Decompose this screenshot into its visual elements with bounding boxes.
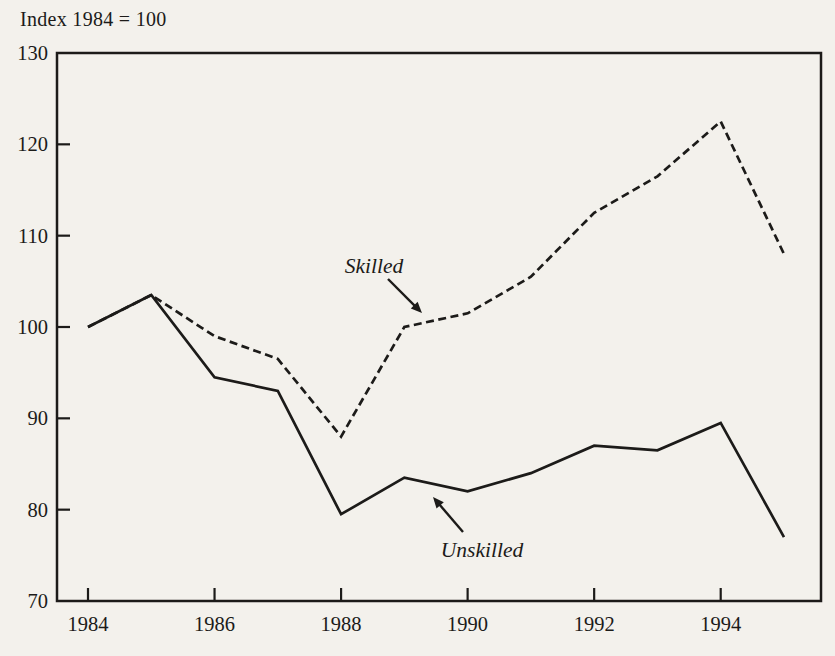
series-skilled-line (88, 122, 784, 437)
annotation-arrow-shaft (438, 502, 463, 532)
y-axis-tick-label: 120 (17, 133, 48, 155)
series-label-skilled: Skilled (345, 254, 404, 278)
y-axis-tick-label: 70 (28, 590, 49, 612)
x-axis-tick-label: 1992 (574, 613, 615, 635)
y-axis-tick-label: 100 (17, 316, 48, 338)
x-axis-tick-label: 1988 (321, 613, 362, 635)
y-axis-tick-label: 130 (17, 42, 48, 64)
y-axis-tick-label: 110 (18, 225, 48, 247)
x-axis-tick-label: 1986 (194, 613, 235, 635)
x-axis-tick-label: 1990 (447, 613, 488, 635)
x-axis-tick-label: 1984 (68, 613, 109, 635)
annotation-arrow-shaft (388, 279, 417, 308)
y-axis-tick-label: 80 (28, 499, 49, 521)
line-chart-canvas: 7080901001101201301984198619881990199219… (0, 0, 835, 656)
x-axis-tick-label: 1994 (700, 613, 741, 635)
series-label-unskilled: Unskilled (441, 538, 524, 562)
y-axis-tick-label: 90 (28, 407, 49, 429)
chart-figure: Index 1984 = 100 70809010011012013019841… (0, 0, 835, 656)
